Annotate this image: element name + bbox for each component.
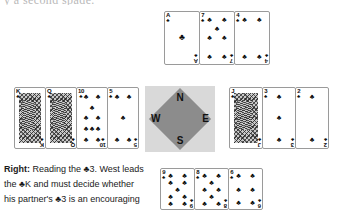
caption-line-3: his partner's ♣3 is an encouraging [4, 192, 164, 207]
card-index-br: A♣ [194, 54, 198, 63]
card-index-br: 9♣ [190, 199, 193, 208]
hand-north: A♣A♣♣7♣7♣♣♣♣♣♣♣♣4♣4♣♣♣♣♣ [164, 11, 270, 65]
pip-field: ♣♣♣♣♣♣♣♣ [201, 172, 222, 206]
pip-field: ♣♣♣♣♣ [114, 91, 132, 145]
club-pip-icon: ♣ [182, 200, 187, 207]
card-index-br: J♣ [258, 138, 261, 147]
club-icon: ♣ [194, 54, 197, 58]
hand-east: J♣J♣3♣3♣♣♣♣2♣2♣♣♣ [229, 87, 329, 149]
club-pip-icon: ♣ [310, 93, 315, 100]
club-pip-icon: ♣ [96, 136, 101, 143]
card-index-br: 5♣ [134, 138, 137, 147]
club-pip-icon: ♣ [127, 93, 132, 100]
card-index-br: 6♣ [258, 199, 261, 208]
card-index-tl: 2♣ [297, 89, 300, 98]
club-icon: ♣ [166, 18, 169, 22]
card-index-br: 10♣ [100, 138, 106, 147]
club-pip-icon: ♣ [277, 93, 282, 100]
figure-caption: Right: Reading the ♣3. West leads the ♣K… [4, 162, 164, 207]
club-pip-icon: ♣ [115, 136, 120, 143]
card-index-tl: 4♣ [236, 13, 239, 22]
club-icon: ♣ [101, 138, 104, 142]
club-pip-icon: ♣ [96, 114, 101, 121]
club-pip-icon: ♣ [179, 33, 185, 42]
compass-label-east: E [202, 114, 209, 124]
card-index-tl: 6♣ [230, 170, 233, 179]
club-icon: ♣ [230, 175, 233, 179]
club-pip-icon: ♣ [222, 16, 227, 23]
card-north-4: 4♣4♣♣♣♣♣ [234, 11, 270, 65]
card-index-tl: 8♣ [196, 170, 199, 179]
club-pip-icon: ♣ [242, 53, 247, 60]
club-pip-icon: ♣ [257, 16, 262, 23]
card-index-tl: 5♣ [109, 89, 112, 98]
hand-west: K♣K♣Q♣Q♣10♣10♣♣♣♣♣♣♣♣♣♣♣5♣5♣♣♣♣♣♣ [14, 87, 139, 149]
club-pip-icon: ♣ [121, 114, 126, 121]
bridge-hand-figure: y a second spade. A♣A♣♣7♣7♣♣♣♣♣♣♣♣4♣4♣♣♣… [0, 0, 338, 210]
club-pip-icon: ♣ [90, 104, 95, 111]
club-pip-icon: ♣ [84, 136, 89, 143]
club-pip-icon: ♣ [216, 200, 221, 207]
card-west-5: 5♣5♣♣♣♣♣♣ [107, 87, 139, 149]
club-pip-icon: ♣ [202, 172, 207, 179]
club-pip-icon: ♣ [175, 186, 180, 193]
card-index-br: 3♣ [291, 138, 294, 147]
card-south-9: 9♣9♣♣♣♣♣♣♣♣♣♣ [160, 168, 195, 210]
club-pip-icon: ♣ [202, 200, 207, 207]
pip-field: ♣♣♣♣♣♣ [235, 172, 256, 206]
pip-field: ♣♣ [302, 91, 322, 145]
club-pip-icon: ♣ [182, 193, 187, 200]
compass-rose: N W E S [145, 86, 215, 152]
card-index-br: 2♣ [324, 138, 327, 147]
club-pip-icon: ♣ [216, 186, 221, 193]
card-west-10: 10♣10♣♣♣♣♣♣♣♣♣♣♣ [76, 87, 108, 149]
court-card-art [50, 93, 72, 143]
caption-lead-in: Right: [4, 164, 30, 174]
club-icon: ♣ [297, 94, 300, 98]
club-pip-icon: ♣ [236, 186, 241, 193]
club-icon: ♣ [190, 199, 193, 203]
club-icon: ♣ [224, 199, 227, 203]
card-south-6: 6♣6♣♣♣♣♣♣♣ [228, 168, 263, 210]
club-pip-icon: ♣ [310, 136, 315, 143]
club-icon: ♣ [230, 54, 233, 58]
club-pip-icon: ♣ [277, 136, 282, 143]
caption-line-1-rest: Reading the ♣3. West leads [30, 164, 144, 174]
card-index-tl: 3♣ [264, 89, 267, 98]
club-pip-icon: ♣ [257, 53, 262, 60]
hand-south: 9♣9♣♣♣♣♣♣♣♣♣♣8♣8♣♣♣♣♣♣♣♣♣6♣6♣♣♣♣♣♣♣ [160, 168, 263, 210]
club-pip-icon: ♣ [250, 172, 255, 179]
club-pip-icon: ♣ [202, 186, 207, 193]
club-pip-icon: ♣ [207, 34, 212, 41]
club-pip-icon: ♣ [215, 25, 220, 32]
club-pip-icon: ♣ [209, 179, 214, 186]
court-card-art [19, 93, 41, 143]
club-pip-icon: ♣ [222, 34, 227, 41]
club-pip-icon: ♣ [90, 125, 95, 132]
caption-line-1: Right: Reading the ♣3. West leads [4, 162, 164, 177]
club-pip-icon: ♣ [277, 114, 282, 121]
caption-line-2: the ♣K and must decide whether [4, 177, 164, 192]
club-pip-icon: ♣ [242, 16, 247, 23]
card-index-br: 4♣ [265, 54, 268, 63]
club-pip-icon: ♣ [182, 172, 187, 179]
club-pip-icon: ♣ [96, 125, 101, 132]
compass-label-west: W [151, 114, 160, 124]
club-pip-icon: ♣ [127, 136, 132, 143]
card-west-Q: Q♣Q♣ [45, 87, 77, 149]
club-pip-icon: ♣ [236, 199, 241, 206]
club-icon: ♣ [236, 18, 239, 22]
card-index-tl: A♣ [166, 13, 170, 22]
club-icon: ♣ [109, 94, 112, 98]
club-pip-icon: ♣ [209, 193, 214, 200]
club-pip-icon: ♣ [84, 114, 89, 121]
club-pip-icon: ♣ [222, 53, 227, 60]
card-east-2: 2♣2♣♣♣ [295, 87, 329, 149]
club-icon: ♣ [201, 18, 204, 22]
club-icon: ♣ [291, 138, 294, 142]
card-index-tl: 7♣ [201, 13, 204, 22]
club-pip-icon: ♣ [207, 16, 212, 23]
club-pip-icon: ♣ [250, 186, 255, 193]
club-icon: ♣ [264, 94, 267, 98]
card-north-A: A♣A♣♣ [164, 11, 200, 65]
